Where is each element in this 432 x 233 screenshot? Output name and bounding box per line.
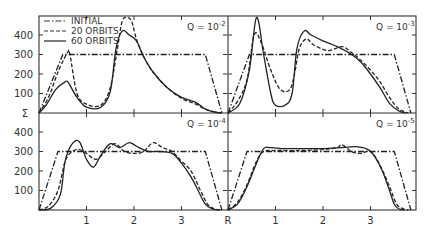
bottom-right-initial-curve — [228, 152, 411, 211]
q-annotation: Q = 10-3 — [376, 20, 415, 32]
bottom-left-20-orbits-curve — [39, 143, 222, 210]
bottom-left-60-orbits-curve — [39, 140, 220, 210]
x-tick-label: 3 — [178, 215, 184, 226]
legend-20-orbits-label: 20 ORBITS — [71, 26, 119, 36]
legend: INITIAL 20 ORBITS 60 ORBITS — [44, 16, 119, 46]
q-annotation: Q = 10-5 — [376, 117, 415, 129]
top-right-20-orbits-curve — [228, 33, 409, 113]
x-tick-label: 3 — [367, 215, 373, 226]
legend-60-orbits-label: 60 ORBITS — [71, 36, 119, 46]
bottom-right-60-orbits-curve — [228, 147, 405, 210]
x-tick-label: 1 — [83, 215, 89, 226]
figure: 400300200100400300200100Σ123123R Q = 10-… — [0, 0, 432, 233]
q-annotation: Q = 10-4 — [187, 117, 226, 129]
bottom-left-initial-curve — [39, 152, 222, 211]
y-tick-label: 300 — [14, 146, 33, 157]
q-annotation: Q = 10-2 — [187, 20, 226, 32]
x-tick-label: 2 — [131, 215, 137, 226]
y-tick-label: 200 — [14, 166, 33, 177]
top-right-initial-curve — [228, 55, 411, 114]
legend-initial-label: INITIAL — [71, 16, 102, 26]
x-tick-label: 2 — [320, 215, 326, 226]
y-tick-label: 100 — [14, 88, 33, 99]
bottom-right-20-orbits-curve — [228, 145, 409, 210]
y-tick-label: 300 — [14, 49, 33, 60]
y-tick-label: 100 — [14, 185, 33, 196]
chart-canvas: 400300200100400300200100Σ123123R Q = 10-… — [0, 0, 432, 233]
top-left-60-orbits-curve — [39, 30, 222, 113]
x-axis-symbol: R — [225, 215, 232, 226]
y-tick-label: 400 — [14, 127, 33, 138]
data-curves — [39, 17, 411, 210]
y-tick-label: 400 — [14, 30, 33, 41]
x-tick-label: 1 — [272, 215, 278, 226]
y-axis-symbol: Σ — [22, 108, 28, 119]
y-tick-label: 200 — [14, 69, 33, 80]
